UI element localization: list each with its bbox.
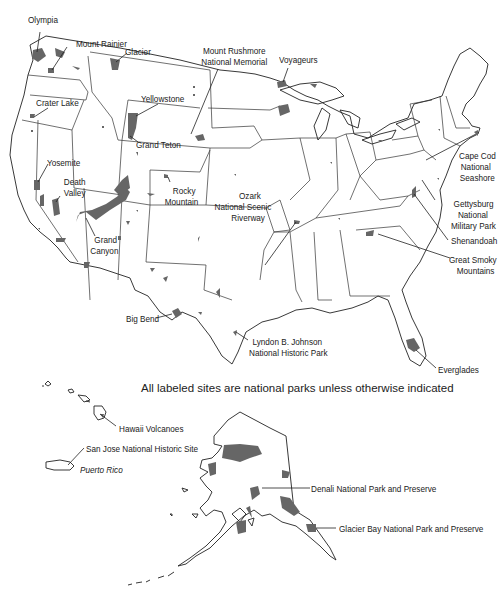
label-death-valley: Death Valley: [64, 176, 86, 198]
label-shenandoah: Shenandoah: [451, 235, 497, 246]
label-lbj: Lyndon B. Johnson National Historic Park: [249, 336, 328, 358]
label-denali: Denali National Park and Preserve: [311, 483, 436, 494]
label-gettysburg-line1: Gettysburg: [451, 198, 496, 209]
label-mount-rushmore: Mount Rushmore National Memorial: [201, 45, 267, 67]
map-note: All labeled sites are national parks unl…: [141, 382, 454, 394]
park-yellowstone: [128, 113, 138, 140]
label-grand-canyon-line2: Canyon: [90, 245, 118, 256]
puerto-rico: [46, 448, 84, 470]
label-ozark-line3: Riverway: [215, 212, 272, 223]
park-big-bend: [172, 308, 182, 318]
label-lbj-line2: National Historic Park: [249, 347, 328, 358]
label-crater-lake: Crater Lake: [36, 97, 79, 108]
label-glacier-bay: Glacier Bay National Park and Preserve: [339, 523, 483, 534]
label-hawaii-volcanoes: Hawaii Volcanoes: [119, 423, 184, 434]
hawaii: [42, 381, 116, 426]
label-death-valley-line2: Valley: [64, 187, 86, 198]
park-everglades: [406, 338, 420, 352]
label-lbj-line1: Lyndon B. Johnson: [249, 336, 328, 347]
label-san-jose: San Jose National Historic Site: [86, 443, 198, 454]
label-gettysburg-line2: National: [451, 209, 496, 220]
label-olympia: Olympia: [28, 14, 58, 25]
label-mount-rushmore-line1: Mount Rushmore: [201, 45, 267, 56]
label-rocky-mountain-line2: Mountain: [165, 196, 199, 207]
park-death-valley: [52, 198, 60, 216]
label-grand-canyon-line1: Grand: [90, 234, 118, 245]
park-lbj: [233, 330, 237, 336]
label-ozark-line1: Ozark: [215, 190, 272, 201]
label-yosemite: Yosemite: [47, 157, 80, 168]
label-rocky-mountain-line1: Rocky: [165, 185, 199, 196]
park-olympia: [32, 48, 46, 62]
label-cape-cod-line1: Cape Cod: [459, 150, 496, 161]
label-ozark: Ozark National Scenic Riverway: [215, 190, 272, 223]
label-voyageurs: Voyageurs: [279, 54, 318, 65]
label-great-smoky-line2: Mountains: [449, 265, 497, 276]
label-mount-rushmore-line2: National Memorial: [201, 56, 267, 67]
national-parks-map: [0, 0, 501, 607]
label-great-smoky: Great Smoky Mountains: [449, 254, 497, 276]
label-cape-cod-line3: Seashore: [459, 172, 496, 183]
park-rocky-mountain: [164, 174, 168, 178]
park-crater-lake: [30, 114, 35, 118]
label-big-bend: Big Bend: [126, 313, 159, 324]
label-great-smoky-line1: Great Smoky: [449, 254, 497, 265]
state-boundaries: [22, 52, 470, 302]
label-cape-cod: Cape Cod National Seashore: [459, 150, 496, 183]
label-grand-canyon: Grand Canyon: [90, 234, 118, 256]
label-gettysburg: Gettysburg National Military Park: [451, 198, 496, 231]
park-yosemite: [34, 180, 40, 190]
label-everglades: Everglades: [438, 364, 479, 375]
label-ozark-line2: National Scenic: [215, 201, 272, 212]
label-rocky-mountain: Rocky Mountain: [165, 185, 199, 207]
label-gettysburg-line3: Military Park: [451, 220, 496, 231]
label-glacier: Glacier: [125, 46, 151, 57]
label-cape-cod-line2: National: [459, 161, 496, 172]
great-lakes: [280, 82, 420, 144]
label-puerto-rico: Puerto Rico: [80, 464, 123, 475]
label-death-valley-line1: Death: [64, 176, 86, 187]
label-yellowstone: Yellowstone: [141, 93, 184, 104]
label-mount-rainier: Mount Rainier: [76, 38, 127, 49]
label-grand-teton: Grand Teton: [136, 139, 181, 150]
alaska: [128, 412, 336, 585]
park-great-smoky: [366, 230, 374, 236]
